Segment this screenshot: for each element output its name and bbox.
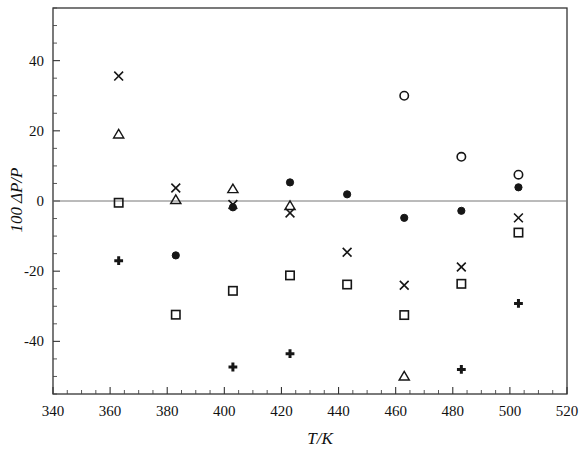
x-tick-label: 520 — [556, 403, 579, 419]
x-tick-label: 340 — [42, 403, 65, 419]
marker-filled-circle — [344, 191, 351, 198]
marker-filled-circle — [172, 252, 179, 259]
y-tick-label: 0 — [37, 193, 45, 209]
x-tick-label: 440 — [327, 403, 350, 419]
marker-filled-circle — [515, 184, 522, 191]
x-tick-label: 360 — [99, 403, 122, 419]
x-axis-title: T/K — [307, 429, 334, 448]
scatter-plot-figure: 340360380400420440460480500520 -40-20020… — [0, 0, 588, 456]
x-tick-label: 460 — [384, 403, 407, 419]
plot-background — [0, 0, 588, 456]
x-tick-label: 480 — [442, 403, 465, 419]
marker-filled-circle — [229, 204, 236, 211]
plot-canvas: 340360380400420440460480500520 -40-20020… — [0, 0, 588, 456]
x-tick-label: 380 — [156, 403, 179, 419]
marker-filled-circle — [458, 207, 465, 214]
y-tick-label: -40 — [24, 333, 44, 349]
y-tick-label: -20 — [24, 263, 44, 279]
x-tick-label: 420 — [270, 403, 293, 419]
marker-filled-circle — [401, 214, 408, 221]
y-axis-title: 100 ΔP/P — [7, 168, 26, 233]
marker-filled-circle — [286, 179, 293, 186]
x-tick-label: 500 — [499, 403, 522, 419]
y-tick-label: 20 — [29, 123, 44, 139]
y-tick-label: 40 — [29, 53, 44, 69]
x-tick-label: 400 — [213, 403, 236, 419]
